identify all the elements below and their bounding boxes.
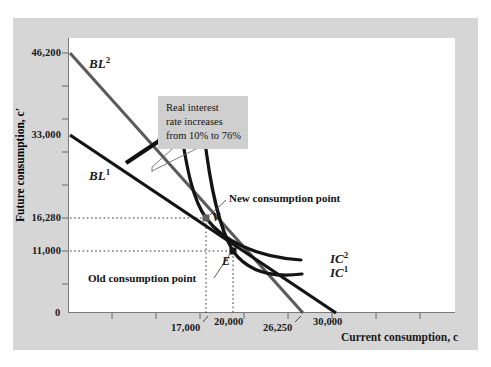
bl2-label-text: BL	[89, 56, 106, 71]
y-axis-title: Future consumption, c′	[14, 108, 26, 222]
annotation-leader-2	[152, 145, 204, 171]
bl2-label-superscript: 2	[106, 55, 111, 65]
annotation-line-1: Real interest	[166, 101, 241, 115]
bl1-label: BL1	[89, 168, 110, 184]
y-tick-label-46200: 46,200	[6, 47, 61, 59]
bl2-label: BL2	[89, 56, 110, 72]
y-tick-label-11000: 11,000	[6, 245, 61, 257]
annotation-line-3: from 10% to 76%	[166, 129, 241, 143]
x-tick-label-17000: 17,000	[171, 322, 200, 334]
ic2-label-superscript: 2	[344, 250, 349, 260]
y-axis-title-prime: ′	[14, 108, 26, 111]
annotation-line-2: rate increases	[166, 115, 241, 129]
point-e-marker	[230, 248, 237, 255]
leader-x-17000	[203, 316, 208, 322]
figure-container: 46,200 33,000 16,280 11,000 17,000 20,00…	[0, 0, 491, 367]
interest-rate-annotation: Real interest rate increases from 10% to…	[158, 96, 248, 149]
chart-graphics	[0, 0, 491, 367]
point-v-label: V	[212, 211, 220, 224]
new-consumption-point-callout: New consumption point	[229, 192, 340, 204]
old-consumption-point-callout: Old consumption point	[88, 272, 196, 284]
origin-label: 0	[55, 307, 60, 319]
x-tick-label-30000: 30,000	[313, 316, 342, 328]
x-axis-ticks	[112, 313, 420, 319]
budget-line-bl1	[70, 135, 336, 313]
y-axis-title-text: Future consumption, c	[14, 111, 26, 222]
x-axis-title: Current consumption, c	[341, 331, 458, 344]
bl1-label-superscript: 1	[106, 167, 111, 177]
x-tick-label-26250: 26,250	[263, 322, 292, 334]
x-tick-label-20000: 20,000	[214, 316, 243, 328]
leader-x-26250	[295, 316, 301, 322]
guide-lines	[70, 218, 233, 313]
point-e-label: E	[222, 255, 230, 268]
ic1-label-text: IC	[330, 265, 344, 280]
y-axis-ticks	[62, 53, 69, 284]
bl1-label-text: BL	[89, 168, 106, 183]
ic1-label: IC1	[330, 265, 348, 281]
ic1-label-superscript: 1	[344, 264, 349, 274]
point-v-marker	[203, 215, 210, 222]
indifference-curve-ic1	[204, 134, 302, 275]
